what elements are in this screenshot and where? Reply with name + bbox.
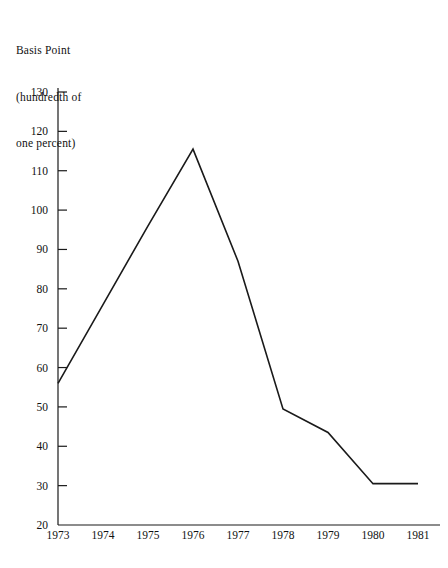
line-chart-figure: Basis Point (hundredth of one percent) 1…	[0, 0, 448, 568]
y-axis-tick-label: 30	[14, 480, 48, 492]
y-axis-tick-label: 60	[14, 362, 48, 374]
x-axis-tick-label: 1979	[306, 529, 350, 541]
y-axis-tick-label: 130	[14, 86, 48, 98]
x-axis-tick-label: 1976	[171, 529, 215, 541]
y-axis-tick-label: 40	[14, 440, 48, 452]
plot-area	[0, 0, 448, 568]
x-axis-tick-label: 1978	[261, 529, 305, 541]
x-axis-tick-label: 1977	[216, 529, 260, 541]
y-axis-tick-label: 50	[14, 401, 48, 413]
data-series-group	[58, 149, 418, 484]
y-axis-ticks	[58, 92, 67, 486]
y-axis-tick-label: 70	[14, 322, 48, 334]
y-axis-tick-label: 80	[14, 283, 48, 295]
x-axis-tick-label: 1980	[351, 529, 395, 541]
x-axis-tick-label: 1975	[126, 529, 170, 541]
axes	[58, 88, 440, 525]
data-line-basis-point	[58, 149, 418, 484]
y-axis-tick-label: 100	[14, 204, 48, 216]
x-axis-tick-label: 1981	[396, 529, 440, 541]
y-axis-tick-label: 120	[14, 125, 48, 137]
x-axis-tick-label: 1974	[81, 529, 125, 541]
y-axis-tick-label: 110	[14, 165, 48, 177]
y-axis-tick-label: 90	[14, 243, 48, 255]
x-axis-tick-label: 1973	[36, 529, 80, 541]
